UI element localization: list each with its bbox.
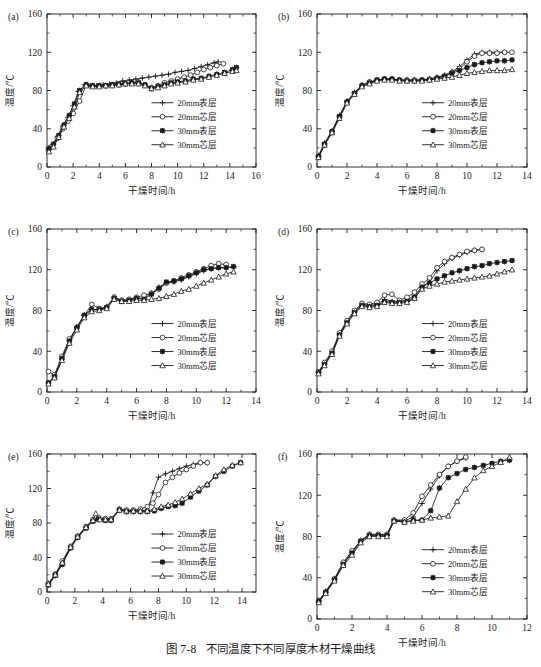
legend-label: 30mm表层 xyxy=(448,346,488,357)
legend: 20mm表层20mm芯层30mm表层30mm芯层 xyxy=(152,97,218,150)
y-tick-label: 40 xyxy=(33,347,43,357)
x-tick-label: 0 xyxy=(315,623,320,633)
axis-ticks: 0246810121404080120160 xyxy=(28,224,261,406)
x-tick-label: 2 xyxy=(72,596,77,606)
x-tick-label: 10 xyxy=(487,623,497,633)
x-tick-label: 10 xyxy=(173,171,183,181)
y-tick-label: 0 xyxy=(37,587,42,597)
y-tick-label: 40 xyxy=(303,347,313,357)
legend-label: 20mm芯层 xyxy=(178,111,218,122)
x-tick-label: 4 xyxy=(375,171,380,181)
legend-label: 20mm芯层 xyxy=(448,332,488,343)
x-tick-label: 8 xyxy=(149,171,154,181)
y-tick-label: 80 xyxy=(33,86,43,96)
x-tick-label: 4 xyxy=(97,171,102,181)
y-tick-label: 120 xyxy=(298,491,313,501)
x-tick-label: 4 xyxy=(385,623,390,633)
y-tick-label: 0 xyxy=(307,162,312,172)
x-tick-label: 0 xyxy=(315,171,320,181)
axis-ticks: 0246810121404080120160 xyxy=(298,224,532,406)
y-tick-label: 80 xyxy=(303,532,313,542)
x-tick-label: 8 xyxy=(164,396,169,406)
y-tick-label: 160 xyxy=(28,224,43,234)
axes-frame xyxy=(47,454,256,592)
plot-f: 02468101204080120160(f)干燥时间/h温度/℃20mm表层2… xyxy=(270,440,541,667)
y-tick-label: 120 xyxy=(298,265,313,275)
y-tick-label: 0 xyxy=(307,387,312,397)
caption-number: 图 7-8 xyxy=(166,643,197,655)
x-tick-label: 12 xyxy=(199,171,209,181)
panel-a: 024681012141604080120160(a)干燥时间/h温度/℃20m… xyxy=(0,0,270,215)
axis-ticks: 02468101204080120160 xyxy=(298,449,532,633)
legend-label: 30mm芯层 xyxy=(448,139,488,150)
x-axis-title: 干燥时间/h xyxy=(128,410,176,421)
legend-label: 30mm芯层 xyxy=(448,586,488,597)
y-tick-label: 120 xyxy=(28,484,43,494)
x-tick-label: 8 xyxy=(435,396,440,406)
x-tick-label: 14 xyxy=(225,171,235,181)
x-tick-label: 8 xyxy=(455,623,460,633)
x-tick-label: 4 xyxy=(100,596,105,606)
y-tick-label: 160 xyxy=(28,449,43,459)
x-tick-label: 0 xyxy=(45,171,50,181)
legend-label: 30mm表层 xyxy=(448,572,488,583)
legend-label: 30mm芯层 xyxy=(448,360,488,371)
legend: 20mm表层20mm芯层30mm表层30mm芯层 xyxy=(422,318,488,371)
y-axis-title: 温度/℃ xyxy=(274,294,285,327)
legend-label: 20mm表层 xyxy=(448,318,488,329)
legend-label: 20mm表层 xyxy=(178,318,218,329)
x-tick-label: 10 xyxy=(462,171,472,181)
y-tick-label: 120 xyxy=(28,48,43,58)
figure-caption: 图 7-8不同温度下不同厚度木材干燥曲线 xyxy=(0,640,541,656)
legend-label: 30mm表层 xyxy=(448,125,488,136)
y-tick-label: 80 xyxy=(303,86,313,96)
y-tick-label: 40 xyxy=(303,573,313,583)
x-tick-label: 2 xyxy=(71,171,76,181)
y-axis-title: 温度/℃ xyxy=(274,520,285,553)
panel-f: 02468101204080120160(f)干燥时间/h温度/℃20mm表层2… xyxy=(270,440,541,640)
legend-label: 20mm表层 xyxy=(178,97,218,108)
axes-frame xyxy=(317,454,527,619)
x-tick-label: 14 xyxy=(251,396,261,406)
x-tick-label: 6 xyxy=(405,396,410,406)
y-tick-label: 120 xyxy=(298,48,313,58)
series-3 xyxy=(45,460,243,588)
x-axis-title: 干燥时间/h xyxy=(128,610,176,621)
x-tick-label: 2 xyxy=(350,623,355,633)
x-tick-label: 4 xyxy=(104,396,109,406)
panel-b: 0246810121404080120160(b)干燥时间/h温度/℃20mm表… xyxy=(270,0,541,215)
y-tick-label: 80 xyxy=(303,306,313,316)
y-axis-title: 温度/℃ xyxy=(4,507,15,540)
series-1 xyxy=(46,460,210,587)
y-tick-label: 80 xyxy=(33,306,43,316)
x-tick-label: 0 xyxy=(45,396,50,406)
x-tick-label: 8 xyxy=(435,171,440,181)
legend: 20mm表层20mm芯层30mm表层30mm芯层 xyxy=(422,97,488,150)
x-tick-label: 6 xyxy=(134,396,139,406)
axes-frame xyxy=(47,229,256,392)
x-tick-label: 10 xyxy=(182,596,192,606)
y-tick-label: 40 xyxy=(33,124,43,134)
axes-frame xyxy=(317,14,527,167)
panel-label: (a) xyxy=(8,12,19,23)
legend: 20mm表层20mm芯层30mm表层30mm芯层 xyxy=(422,544,488,597)
x-tick-label: 6 xyxy=(123,171,128,181)
x-tick-label: 14 xyxy=(522,171,532,181)
x-tick-label: 12 xyxy=(209,596,219,606)
legend-label: 20mm表层 xyxy=(448,97,488,108)
y-tick-label: 160 xyxy=(28,9,43,19)
legend-label: 30mm芯层 xyxy=(178,360,218,371)
y-axis-title: 温度/℃ xyxy=(4,294,15,327)
figure-container: 024681012141604080120160(a)干燥时间/h温度/℃20m… xyxy=(0,0,541,667)
legend-label: 30mm表层 xyxy=(178,346,218,357)
axis-ticks: 024681012141604080120160 xyxy=(28,9,261,181)
x-tick-label: 4 xyxy=(375,396,380,406)
caption-text: 不同温度下不同厚度木材干燥曲线 xyxy=(206,643,376,655)
legend: 20mm表层20mm芯层30mm表层30mm芯层 xyxy=(152,528,218,581)
x-tick-label: 12 xyxy=(492,396,502,406)
x-tick-label: 2 xyxy=(74,396,79,406)
y-tick-label: 0 xyxy=(307,614,312,624)
x-tick-label: 16 xyxy=(251,171,261,181)
y-tick-label: 120 xyxy=(28,265,43,275)
series-3 xyxy=(316,258,516,376)
